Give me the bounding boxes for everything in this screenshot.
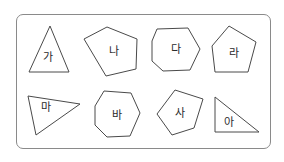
shape-label-na: 나	[109, 45, 119, 58]
right-triangle-shape	[215, 97, 259, 132]
shape-ba: 바	[95, 91, 140, 137]
shape-label-ba: 바	[112, 109, 122, 122]
shape-label-da: 다	[171, 43, 181, 56]
shape-label-ma: 마	[41, 101, 51, 114]
shape-label-a: 아	[224, 116, 234, 129]
shape-label-ga: 가	[43, 51, 53, 64]
shape-ra: 라	[212, 26, 256, 72]
shape-da: 다	[152, 28, 200, 71]
triangle-shape	[28, 96, 80, 135]
shape-label-sa: 사	[175, 107, 185, 120]
shape-a: 아	[215, 97, 259, 132]
shapes-canvas: 가 나 다 라 마 바 사 아	[0, 0, 284, 162]
shape-na: 나	[84, 27, 137, 76]
triangle-shape	[29, 26, 69, 72]
shape-sa: 사	[157, 90, 203, 135]
shape-label-ra: 라	[229, 47, 239, 60]
shape-ga: 가	[29, 26, 69, 72]
shape-ma: 마	[28, 96, 80, 135]
